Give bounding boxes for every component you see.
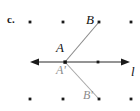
grid-dot xyxy=(98,21,101,24)
point-label-a-prime: A' xyxy=(56,64,66,76)
dot-grid xyxy=(29,21,133,101)
point-label-a: A xyxy=(56,41,64,54)
line-of-reflection xyxy=(30,58,130,65)
grid-dot xyxy=(62,21,65,24)
grid-dot xyxy=(130,98,133,101)
geometry-figure: c. B A A' B' l xyxy=(0,0,140,111)
grid-dot xyxy=(29,21,32,24)
ray-a-to-b-prime xyxy=(65,62,99,99)
grid-dot xyxy=(98,98,101,101)
ray-a-to-b xyxy=(65,22,99,62)
point-label-b: B xyxy=(86,13,94,26)
arrowhead-left-icon xyxy=(30,58,39,65)
arrowhead-right-icon xyxy=(121,58,130,65)
line-label-l: l xyxy=(131,65,135,78)
grid-dot xyxy=(130,21,133,24)
grid-dot xyxy=(29,98,32,101)
ray-group xyxy=(65,22,99,99)
item-label: c. xyxy=(7,14,15,25)
grid-dot-on-line xyxy=(97,61,100,64)
figure-canvas xyxy=(0,0,140,111)
point-label-b-prime: B' xyxy=(83,89,93,101)
grid-dot xyxy=(62,98,65,101)
